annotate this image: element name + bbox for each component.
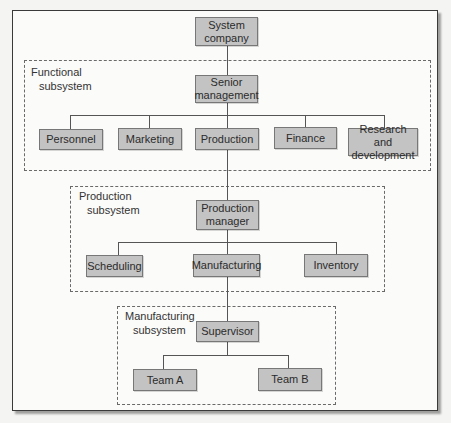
node-text: Inventory: [313, 259, 358, 272]
node-research-and-development: Research and development: [348, 128, 418, 156]
node-supervisor: Supervisor: [196, 321, 259, 342]
connector: [227, 277, 228, 321]
connector: [149, 115, 150, 128]
connector: [288, 355, 289, 368]
node-text: Manufacturing: [192, 259, 262, 272]
node-text: manager: [206, 215, 249, 228]
node-text: Production: [201, 133, 254, 146]
node-system-company: System company: [195, 17, 258, 46]
node-text: development: [352, 149, 415, 162]
node-scheduling: Scheduling: [86, 255, 143, 277]
node-text: Research and: [349, 123, 417, 149]
node-team-a: Team A: [133, 369, 197, 391]
node-manufacturing: Manufacturing: [193, 254, 260, 277]
node-inventory: Inventory: [304, 254, 368, 277]
node-text: Personnel: [46, 133, 96, 146]
connector: [305, 115, 306, 127]
node-text: Team B: [271, 373, 308, 386]
connector: [118, 242, 119, 255]
label-line: subsystem: [31, 79, 92, 93]
node-senior-management: Senior management: [195, 75, 258, 103]
connector: [70, 115, 385, 116]
node-text: System: [208, 19, 245, 32]
node-text: Production: [201, 202, 254, 215]
label-line: subsystem: [79, 203, 140, 217]
node-production-manager: Production manager: [196, 200, 259, 230]
connector: [227, 342, 228, 355]
label-line: Manufacturing: [125, 309, 195, 323]
node-personnel: Personnel: [39, 129, 103, 150]
node-text: Senior: [211, 76, 243, 89]
node-text: company: [204, 32, 249, 45]
label-line: Functional: [31, 65, 92, 79]
node-text: Scheduling: [87, 260, 141, 273]
node-text: management: [194, 89, 258, 102]
connector: [70, 115, 71, 129]
node-text: Finance: [286, 132, 325, 145]
node-production: Production: [195, 128, 259, 150]
connector: [336, 242, 337, 254]
node-finance: Finance: [274, 127, 337, 149]
node-text: Marketing: [126, 133, 174, 146]
connector: [163, 355, 164, 369]
label-line: Production: [79, 189, 140, 203]
connector: [227, 150, 228, 200]
node-marketing: Marketing: [118, 128, 182, 150]
label-line: subsystem: [125, 323, 195, 337]
connector: [163, 355, 289, 356]
connector: [227, 46, 228, 75]
node-text: Team A: [147, 374, 184, 387]
production-subsystem-label: Production subsystem: [79, 189, 140, 217]
functional-subsystem-label: Functional subsystem: [31, 65, 92, 93]
node-text: Supervisor: [201, 325, 254, 338]
manufacturing-subsystem-label: Manufacturing subsystem: [125, 309, 195, 337]
connector: [118, 242, 337, 243]
node-team-b: Team B: [258, 368, 322, 391]
